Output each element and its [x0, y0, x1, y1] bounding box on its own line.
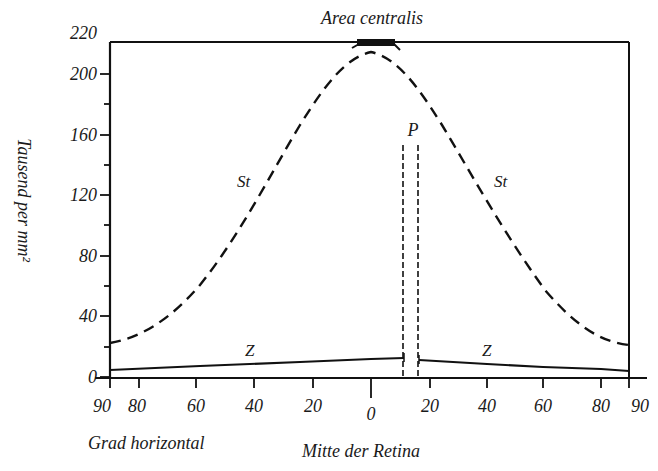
- x-tick-20-left: 20: [304, 396, 322, 416]
- y-axis-title: Tausend per mm²: [14, 138, 34, 262]
- x-tick-60-left: 60: [187, 396, 205, 416]
- x-tick-90-right: 90: [631, 396, 649, 416]
- series-z-line-left: [110, 358, 404, 370]
- y-tick-200: 200: [70, 64, 97, 84]
- y-tick-40: 40: [79, 306, 97, 326]
- plot-frame: [95, 42, 647, 378]
- st-label-left: St: [237, 172, 252, 191]
- y-axis-labels: 0 40 80 120 160 200 220: [70, 23, 97, 387]
- y-tick-120: 120: [70, 185, 97, 205]
- area-centralis-marker: [352, 39, 400, 50]
- y-axis-ticks: [100, 74, 110, 377]
- series-z-line-right: [419, 360, 629, 371]
- series-st-curve: [110, 52, 629, 345]
- x-tick-80-left: 80: [128, 396, 146, 416]
- chart-title: Area centralis: [320, 8, 423, 28]
- x-tick-40-left: 40: [245, 396, 263, 416]
- st-label-right: St: [494, 172, 509, 191]
- y-tick-0: 0: [88, 367, 97, 387]
- z-label-right: Z: [482, 341, 492, 360]
- x-axis-labels: 90 80 60 40 20 0 20 40 60 80 90: [93, 396, 649, 424]
- retina-density-chart: 0 40 80 120 160 200 220 90 80 60 40 20 0…: [0, 0, 658, 471]
- x-axis-title-center: Mitte der Retina: [301, 441, 420, 461]
- x-axis-ticks: [110, 378, 629, 398]
- y-tick-80: 80: [79, 246, 97, 266]
- x-tick-20-right: 20: [421, 396, 439, 416]
- y-tick-160: 160: [70, 125, 97, 145]
- blind-spot-lines: [403, 145, 418, 378]
- y-tick-220: 220: [70, 23, 97, 43]
- x-tick-40-right: 40: [478, 396, 496, 416]
- z-label-left: Z: [245, 341, 255, 360]
- x-axis-title-left: Grad horizontal: [88, 433, 205, 453]
- x-tick-80-right: 80: [592, 396, 610, 416]
- blind-spot-label: P: [407, 120, 419, 140]
- x-tick-0: 0: [367, 404, 376, 424]
- x-tick-90-left: 90: [93, 396, 111, 416]
- x-tick-60-right: 60: [534, 396, 552, 416]
